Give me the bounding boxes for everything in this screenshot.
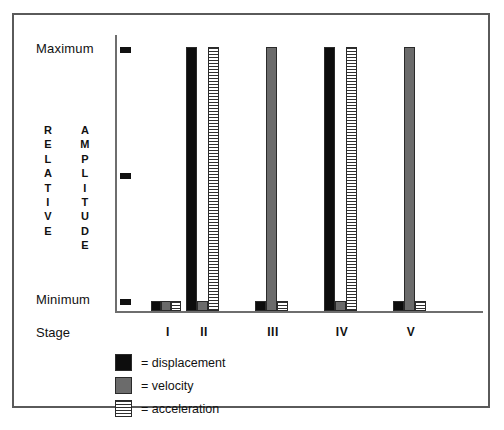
bar-group-stage-II — [186, 35, 222, 311]
chart-legend: = displacement= velocity= acceleration — [115, 351, 225, 420]
legend-label-acceleration: = acceleration — [141, 402, 219, 416]
displacement-swatch — [115, 354, 132, 371]
acceleration-swatch — [115, 400, 132, 417]
bar-displacement-stage-V — [393, 301, 404, 311]
y-axis-min-label: Minimum — [36, 292, 90, 307]
x-axis-line — [115, 311, 483, 313]
legend-item-displacement: = displacement — [115, 351, 225, 374]
figure-frame: Maximum Minimum RELATIVE AMPLITUDE Stage… — [12, 13, 490, 408]
bar-displacement-stage-IV — [324, 47, 335, 311]
amplitude-letter-1: M — [78, 137, 92, 151]
amplitude-letter-5: T — [78, 195, 92, 209]
stage-tick-label-II: II — [184, 325, 224, 339]
bar-group-stage-I — [151, 35, 185, 311]
relative-letter-6: V — [41, 209, 55, 223]
legend-item-velocity: = velocity — [115, 374, 225, 397]
bar-velocity-stage-V — [404, 47, 415, 311]
amplitude-letter-8: E — [78, 238, 92, 252]
velocity-swatch — [115, 377, 132, 394]
bar-group-stage-V — [393, 35, 429, 311]
bar-acceleration-stage-V — [415, 301, 426, 311]
stage-axis-label: Stage — [36, 325, 70, 340]
amplitude-letter-0: A — [78, 123, 92, 137]
stage-tick-label-V: V — [391, 325, 431, 339]
amplitude-letter-3: L — [78, 166, 92, 180]
relative-letter-5: I — [41, 195, 55, 209]
bar-displacement-stage-III — [255, 301, 266, 311]
stage-tick-label-IV: IV — [322, 325, 362, 339]
relative-letter-7: E — [41, 224, 55, 238]
bar-velocity-stage-IV — [335, 301, 346, 311]
bar-velocity-stage-III — [266, 47, 277, 311]
amplitude-letter-4: I — [78, 181, 92, 195]
bar-acceleration-stage-II — [208, 47, 219, 311]
legend-label-displacement: = displacement — [141, 356, 225, 370]
stage-tick-label-III: III — [253, 325, 293, 339]
legend-label-velocity: = velocity — [141, 379, 193, 393]
legend-item-acceleration: = acceleration — [115, 397, 225, 420]
bar-displacement-stage-II — [186, 47, 197, 311]
relative-letter-0: R — [41, 123, 55, 137]
y-tick-minimum — [120, 299, 131, 305]
relative-letter-1: E — [41, 137, 55, 151]
relative-letter-3: A — [41, 166, 55, 180]
relative-letter-2: L — [41, 152, 55, 166]
bar-group-stage-IV — [324, 35, 360, 311]
plot-area — [115, 35, 483, 313]
bar-velocity-stage-I — [161, 301, 171, 311]
bar-acceleration-stage-IV — [346, 47, 357, 311]
bar-group-stage-III — [255, 35, 291, 311]
amplitude-letter-7: D — [78, 224, 92, 238]
bar-velocity-stage-II — [197, 301, 208, 311]
bar-acceleration-stage-I — [171, 301, 181, 311]
bar-acceleration-stage-III — [277, 301, 288, 311]
amplitude-letter-6: U — [78, 209, 92, 223]
y-axis-title-amplitude: AMPLITUDE — [78, 123, 92, 253]
bar-displacement-stage-I — [151, 301, 161, 311]
y-axis-line — [115, 35, 117, 313]
y-axis-max-label: Maximum — [36, 41, 94, 56]
y-tick-middle — [120, 173, 131, 179]
relative-letter-4: T — [41, 181, 55, 195]
y-tick-maximum — [120, 47, 131, 53]
amplitude-letter-2: P — [78, 152, 92, 166]
y-axis-title-relative: RELATIVE — [41, 123, 55, 238]
stage-tick-label-I: I — [148, 325, 188, 339]
